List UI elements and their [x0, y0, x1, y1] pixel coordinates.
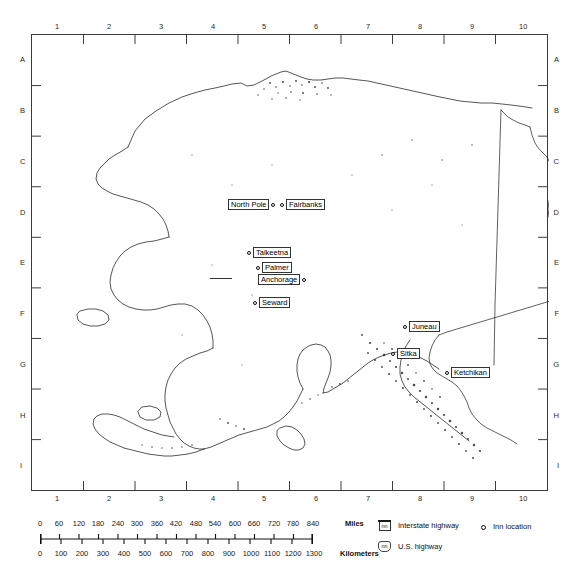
city-label: Ketchikan [451, 367, 490, 378]
scale-tick-label: 500 [139, 549, 152, 559]
grid-row-label: E [20, 259, 25, 267]
inn-location-icon [256, 266, 260, 270]
scale-tick-label: 900 [223, 549, 236, 559]
map-page: 1 2 3 4 5 6 7 8 9 10 1 2 3 4 5 6 7 8 9 1… [0, 0, 580, 588]
grid-col-label: 8 [418, 495, 422, 503]
grid-col-label: 6 [314, 23, 318, 31]
bristol-bay-coast [204, 389, 303, 449]
scale-tick-label: 600 [229, 519, 242, 529]
yukon-east-boundary [530, 127, 549, 284]
city-palmer[interactable]: Palmer [256, 262, 292, 273]
kuskokwim-delta-coast [165, 348, 213, 449]
grid-col-label: 10 [519, 23, 527, 31]
grid-col-label: 3 [159, 23, 163, 31]
scale-tick-label: 360 [151, 519, 164, 529]
scale-tick-label: 840 [307, 519, 320, 529]
inn-location-icon [403, 325, 407, 329]
scale-tick-label: 200 [76, 549, 89, 559]
scale-tick-label: 0 [38, 549, 42, 559]
city-label: Anchorage [258, 274, 300, 285]
legend-item-interstate: nn Interstate highway [378, 520, 459, 531]
grid-row-label: A [20, 56, 25, 64]
grid-col-label: 7 [366, 495, 370, 503]
inn-location-icon [280, 203, 284, 207]
grid-col-label: 2 [107, 495, 111, 503]
grid-row-label: A [554, 56, 559, 64]
seward-peninsula-coast [110, 237, 213, 348]
scale-tick-label: 100 [55, 549, 68, 559]
grid-col-label: 3 [159, 495, 163, 503]
scale-axis [40, 532, 313, 546]
scale-tick-label: 60 [55, 519, 63, 529]
scale-unit-kilometers: Kilometers [340, 549, 379, 559]
city-label: Seward [259, 297, 290, 308]
inn-location-icon [445, 371, 449, 375]
inn-location-icon [481, 525, 486, 530]
grid-col-label: 9 [470, 23, 474, 31]
scale-unit-miles: Miles [345, 519, 364, 529]
map-frame: 1 2 3 4 5 6 7 8 9 10 1 2 3 4 5 6 7 8 9 1… [31, 34, 548, 491]
scale-tick-label: 480 [190, 519, 203, 529]
bc-border-line [429, 335, 517, 444]
inn-location-icon [253, 301, 257, 305]
city-label: Juneau [409, 321, 440, 332]
scale-tick-label: 1200 [285, 549, 302, 559]
legend-label: U.S. highway [398, 542, 442, 552]
city-label: North Pole [228, 199, 269, 210]
scale-tick-label: 600 [160, 549, 173, 559]
scale-tick-label: 1100 [264, 549, 280, 559]
grid-col-label: 1 [55, 495, 59, 503]
grid-row-label: D [554, 209, 559, 217]
city-talkeetna[interactable]: Talkeetna [247, 247, 291, 258]
grid-col-label: 7 [366, 23, 370, 31]
cook-inlet-kenai-coast [297, 344, 331, 393]
city-fairbanks[interactable]: Fairbanks [280, 199, 325, 210]
scale-tick-label: 400 [118, 549, 131, 559]
grid-row-label: B [554, 107, 559, 115]
grid-col-label: 4 [211, 495, 215, 503]
grid-row-label: H [554, 412, 559, 420]
island-stipple [141, 80, 481, 459]
city-ketchikan[interactable]: Ketchikan [445, 367, 490, 378]
scale-tick-label: 780 [287, 519, 300, 529]
scale-tick-label: 540 [209, 519, 222, 529]
grid-row-label: C [20, 158, 25, 166]
scale-tick-label: 180 [92, 519, 105, 529]
interstate-shield-icon: nn [378, 520, 391, 531]
grid-col-label: 2 [107, 23, 111, 31]
scale-tick-label: 300 [131, 519, 144, 529]
city-label: Sitka [397, 348, 420, 359]
scale-bar: 0 60 120 180 240 300 360 420 480 540 600… [40, 519, 360, 569]
grid-row-label: G [553, 361, 559, 369]
city-juneau[interactable]: Juneau [403, 321, 440, 332]
legend-item-inn-location: Inn location [481, 522, 531, 532]
gulf-of-alaska-coast [323, 352, 439, 393]
city-label: Talkeetna [253, 247, 291, 258]
anchorage-leader-line [210, 278, 232, 279]
city-label: Fairbanks [286, 199, 325, 210]
interstate-shield-number: nn [379, 522, 391, 531]
city-sitka[interactable]: Sitka [391, 348, 420, 359]
city-north-pole[interactable]: North Pole [228, 199, 275, 210]
scale-tick-label: 660 [248, 519, 261, 529]
scale-tick-label: 700 [181, 549, 194, 559]
scale-tick-label: 240 [112, 519, 125, 529]
grid-col-label: 5 [262, 495, 266, 503]
grid-row-label: I [557, 462, 559, 470]
us-highway-shield-icon: nn [378, 541, 391, 552]
scale-tick-label: 1000 [243, 549, 260, 559]
st-lawrence-island [77, 309, 109, 326]
grid-row-label: G [20, 361, 26, 369]
grid-row-label: I [20, 462, 22, 470]
grid-row-label: H [20, 412, 25, 420]
legend-item-us-highway: nn U.S. highway [378, 541, 442, 552]
scale-tick-label: 800 [202, 549, 215, 559]
scale-kilometers-labels: 0 100 200 300 400 500 600 700 800 900 10… [40, 549, 360, 561]
scale-miles-labels: 0 60 120 180 240 300 360 420 480 540 600… [40, 519, 360, 531]
grid-row-label: D [20, 209, 25, 217]
scale-tick-label: 300 [97, 549, 110, 559]
legend-label: Inn location [493, 522, 531, 532]
city-seward[interactable]: Seward [253, 297, 290, 308]
city-anchorage[interactable]: Anchorage [258, 274, 306, 285]
inn-location-icon [391, 352, 395, 356]
